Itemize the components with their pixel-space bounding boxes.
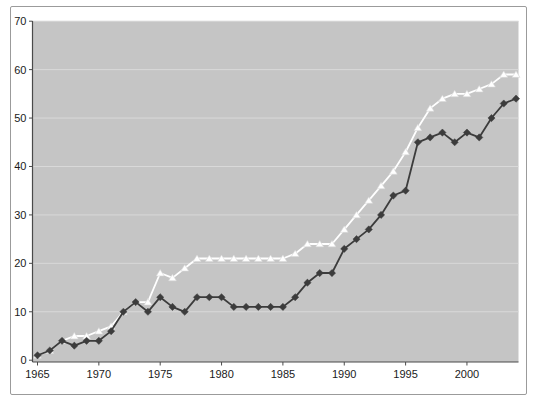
y-tick-label: 0 [20, 354, 26, 366]
chart-window: 0102030405060701965197019751980198519901… [0, 0, 539, 403]
y-tick-label: 10 [14, 306, 26, 318]
line-chart: 0102030405060701965197019751980198519901… [0, 0, 539, 403]
y-tick-label: 50 [14, 112, 26, 124]
plot-area [33, 21, 519, 362]
y-tick-label: 70 [14, 15, 26, 27]
x-tick-label: 1970 [87, 368, 111, 380]
x-tick-label: 2000 [455, 368, 479, 380]
y-tick-label: 40 [14, 160, 26, 172]
x-tick-label: 1985 [271, 368, 295, 380]
x-tick-label: 1990 [332, 368, 356, 380]
y-tick-label: 60 [14, 64, 26, 76]
y-tick-label: 20 [14, 257, 26, 269]
x-tick-label: 1965 [25, 368, 49, 380]
x-tick-label: 1980 [209, 368, 233, 380]
x-tick-label: 1975 [148, 368, 172, 380]
y-tick-label: 30 [14, 209, 26, 221]
x-tick-label: 1995 [393, 368, 417, 380]
